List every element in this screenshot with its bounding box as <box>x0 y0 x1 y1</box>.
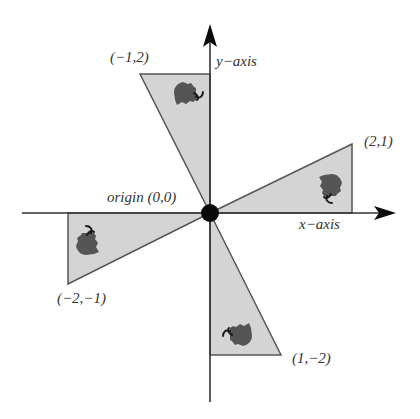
vertex-label-bottom: (1,−2) <box>292 351 331 366</box>
vertex-label-left: (−2,−1) <box>57 291 106 306</box>
x-axis-label: x−axis <box>299 217 340 232</box>
origin-label: origin (0,0) <box>107 190 176 205</box>
origin-dot <box>201 204 219 222</box>
vertex-label-top: (−1,2) <box>110 50 149 65</box>
vertex-label-right: (2,1) <box>364 134 393 149</box>
diagram-canvas <box>0 0 420 419</box>
y-axis-label: y−axis <box>216 54 257 69</box>
rotation-diagram: y−axis x−axis origin (0,0) (−1,2) (2,1) … <box>0 0 420 419</box>
